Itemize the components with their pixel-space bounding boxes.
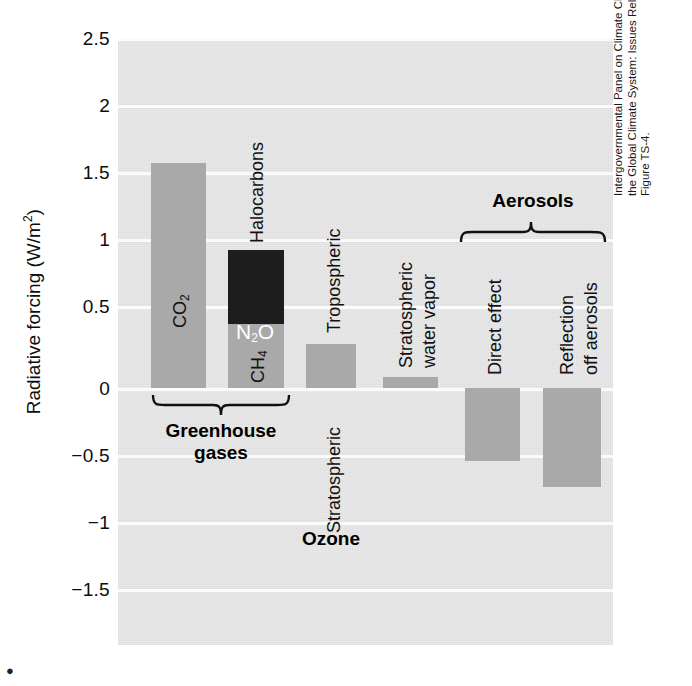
y-tick-0: 0 (50, 379, 110, 398)
bar-label-stratospheric-ozone: Stratospheric (325, 427, 343, 533)
gridline-2.5 (118, 38, 613, 41)
bar-label-ch4: CH4 (249, 350, 269, 383)
y-tick--1: −1 (50, 513, 110, 532)
y-tick-2.5: 2.5 (50, 29, 110, 48)
bar-label-tropospheric: Tropospheric (325, 229, 343, 333)
y-tick-2: 2 (50, 96, 110, 115)
bar-co2 (151, 163, 206, 388)
bar-tropospheric-ozone (306, 344, 356, 388)
gridline-0 (118, 388, 613, 391)
y-tick-1.5: 1.5 (50, 163, 110, 182)
gridline-2 (118, 105, 613, 108)
bar-label-n2o: N2O (236, 321, 274, 344)
group-label-ozone: Ozone (261, 528, 401, 550)
corner-mark-icon: ● (6, 664, 20, 678)
y-tick-1: 1 (50, 230, 110, 249)
bar-label-halocarbons: Halocarbons (248, 142, 266, 243)
y-tick--1.5: −1.5 (50, 580, 110, 599)
y-tick--0.5: −0.5 (50, 446, 110, 465)
chart-plot-area: CO2 Halocarbons N2O CH4 Tropospheric Str… (118, 38, 613, 645)
brace-aerosols (459, 220, 607, 244)
brace-greenhouse-gases (151, 393, 291, 417)
bar-label-direct-effect: Direct effect (486, 279, 504, 375)
bar-label-strat-water-vapor-line2: water vapor (420, 274, 438, 368)
bar-label-reflection-line1: Reflection (558, 295, 576, 375)
bar-label-strat-water-vapor-line1: Stratospheric (397, 262, 415, 368)
group-label-aerosols: Aerosols (459, 190, 607, 212)
bar-halocarbons-n2o (228, 250, 284, 324)
gridline--1 (118, 522, 613, 525)
gridline--1.5 (118, 589, 613, 592)
bar-label-reflection-line2: off aerosols (582, 282, 600, 375)
y-axis-label: Radiative forcing (W/m2) (21, 182, 44, 442)
bar-stratospheric-water-vapor (383, 377, 438, 388)
bar-aerosol-direct-effect (465, 388, 520, 461)
group-label-greenhouse-gases: Greenhouse gases (131, 420, 311, 464)
y-axis-ticks: 2.5 2 1.5 1 0.5 0 −0.5 −1 −1.5 (38, 0, 110, 686)
bar-aerosol-reflection (543, 388, 601, 487)
y-tick-0.5: 0.5 (50, 297, 110, 316)
bar-label-co2: CO2 (171, 294, 191, 328)
source-caption: Intergovernmental Panel on Climate Chang… (612, 0, 653, 196)
